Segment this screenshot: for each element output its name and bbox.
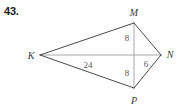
edge-MN <box>134 23 161 55</box>
vertex-label-M: M <box>129 7 139 18</box>
measure-label-24: 24 <box>84 60 94 70</box>
measure-label-XN-6: 6 <box>144 59 149 69</box>
measure-label-MX-8: 8 <box>125 33 130 43</box>
vertex-label-P: P <box>130 95 137 106</box>
vertex-label-K: K <box>27 50 36 61</box>
edge-KM <box>40 23 134 55</box>
kite-geometry-diagram: K M N P 24 8 8 6 <box>0 0 180 111</box>
figure-container: 43. K M N P 24 8 8 6 <box>0 0 180 111</box>
measure-label-XP-8: 8 <box>125 68 130 78</box>
vertex-label-N: N <box>166 49 175 60</box>
